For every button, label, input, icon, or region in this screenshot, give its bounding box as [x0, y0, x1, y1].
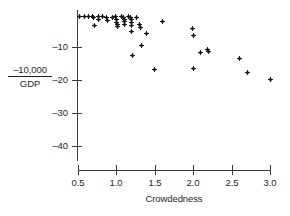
- data-point-marker: [152, 67, 157, 72]
- data-point-marker: [129, 23, 134, 28]
- data-point-marker: [144, 31, 149, 36]
- data-point-marker: [138, 25, 143, 30]
- data-point-marker: [130, 53, 135, 58]
- y-axis-title-numerator: –10,000: [6, 64, 54, 76]
- data-point-marker: [190, 26, 195, 31]
- y-axis-title-denominator: GDP: [6, 78, 54, 89]
- data-point-marker: [160, 19, 165, 24]
- data-point-marker: [245, 70, 250, 75]
- fraction-bar-icon: [8, 76, 52, 77]
- data-point-marker: [198, 50, 203, 55]
- y-axis-title: –10,000 GDP: [6, 64, 54, 89]
- data-points-layer: [0, 0, 290, 216]
- x-axis-title-label: Crowdedness: [146, 193, 203, 204]
- data-point-marker: [122, 22, 127, 27]
- x-axis-title: Crowdedness: [0, 194, 290, 204]
- data-point-marker: [129, 29, 134, 34]
- data-point-marker: [134, 15, 139, 20]
- data-point-marker: [139, 43, 144, 48]
- data-point-marker: [92, 23, 97, 28]
- scatter-plot-figure: 0.51.01.52.02.53.0–10–20–30–40 –10,000 G…: [0, 0, 290, 216]
- data-point-marker: [115, 24, 120, 29]
- data-point-marker: [268, 77, 273, 82]
- data-point-marker: [191, 33, 196, 38]
- data-point-marker: [206, 49, 211, 54]
- data-point-marker: [105, 18, 110, 23]
- data-point-marker: [237, 56, 242, 61]
- data-point-marker: [191, 66, 196, 71]
